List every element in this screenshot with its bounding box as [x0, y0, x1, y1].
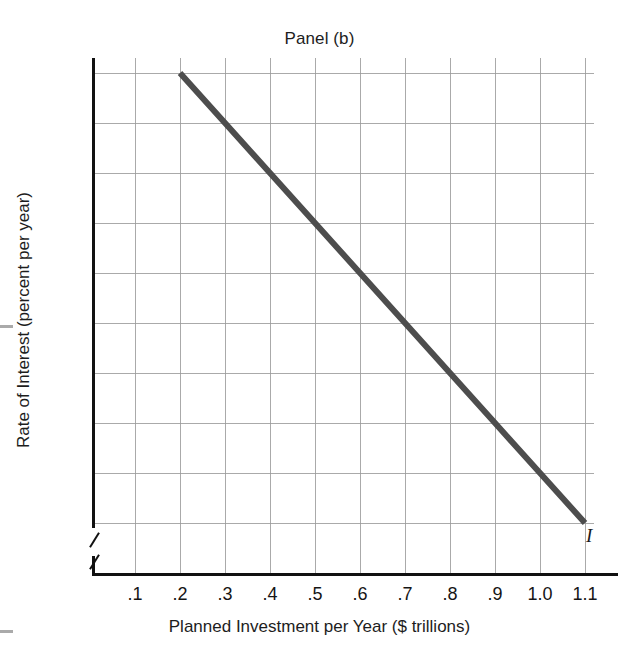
gridline-horizontal: [92, 223, 594, 224]
chart-title: Panel (b): [0, 29, 639, 49]
y-axis-title: Rate of Interest (percent per year): [14, 110, 34, 530]
gridline-vertical: [180, 58, 181, 575]
gridline-vertical: [405, 58, 406, 575]
gridline-vertical: [450, 58, 451, 575]
gridline-vertical: [540, 58, 541, 575]
gridline-vertical: [135, 58, 136, 575]
gridline-horizontal: [92, 123, 594, 124]
gridline-horizontal: [92, 273, 594, 274]
gridline-vertical: [225, 58, 226, 575]
gridline-horizontal: [92, 523, 594, 524]
gridline-vertical: [585, 58, 586, 575]
gridline-horizontal: [92, 173, 594, 174]
curve-label-investment-demand: I: [586, 525, 592, 547]
plot-area: [92, 58, 618, 575]
gridline-horizontal: [92, 373, 594, 374]
gridline-horizontal: [92, 423, 594, 424]
gridline-horizontal: [92, 323, 594, 324]
investment-demand-chart-figure: Panel (b) 67891011121314150 .1.2.3.4.5.6…: [0, 0, 639, 658]
gridline-horizontal: [92, 473, 594, 474]
gridline-vertical: [360, 58, 361, 575]
gridline-vertical: [270, 58, 271, 575]
gridline-horizontal: [92, 73, 594, 74]
x-axis-line: [92, 573, 618, 576]
gridline-vertical: [315, 58, 316, 575]
x-tick-label: 1.1: [555, 584, 615, 605]
y-tick-label-group: 67891011121314150: [0, 0, 86, 658]
y-axis-line: [92, 58, 95, 528]
gridline-vertical: [495, 58, 496, 575]
x-axis-title: Planned Investment per Year ($ trillions…: [0, 617, 639, 637]
